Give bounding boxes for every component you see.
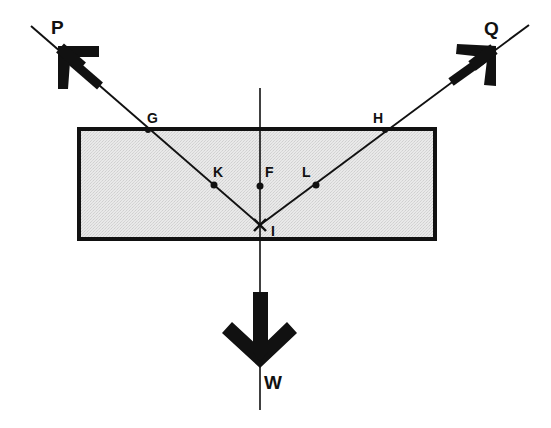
- point-g: [145, 127, 151, 133]
- arrow-p-icon: [58, 46, 100, 89]
- label-f: F: [265, 165, 274, 179]
- label-k: K: [213, 165, 223, 179]
- label-q: Q: [484, 19, 499, 38]
- arrow-q-icon: [451, 44, 496, 86]
- force-diagram: [0, 0, 551, 428]
- arrow-w-icon: [222, 292, 297, 368]
- label-w: W: [264, 373, 282, 392]
- label-g: G: [147, 111, 158, 125]
- point-k: [211, 182, 218, 189]
- label-l: L: [302, 165, 311, 179]
- point-h: [382, 127, 388, 133]
- point-l: [313, 182, 320, 189]
- label-h: H: [373, 111, 383, 125]
- label-p: P: [51, 18, 64, 37]
- point-f: [257, 183, 264, 190]
- label-i: I: [271, 224, 275, 238]
